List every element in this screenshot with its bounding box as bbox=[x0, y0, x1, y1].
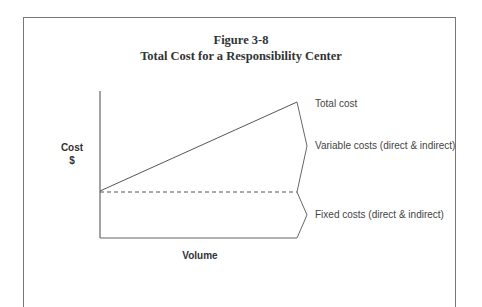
variable-costs-label: Variable costs (direct & indirect) bbox=[315, 140, 455, 151]
total-cost-line bbox=[100, 102, 297, 191]
y-axis-label-cost: Cost bbox=[52, 142, 92, 153]
total-cost-label: Total cost bbox=[315, 98, 357, 109]
x-axis-label: Volume bbox=[160, 250, 240, 261]
fixed-costs-brace bbox=[297, 192, 307, 238]
variable-costs-brace bbox=[297, 102, 307, 192]
fixed-costs-label: Fixed costs (direct & indirect) bbox=[315, 209, 444, 220]
y-axis-label-dollar: $ bbox=[52, 155, 92, 166]
